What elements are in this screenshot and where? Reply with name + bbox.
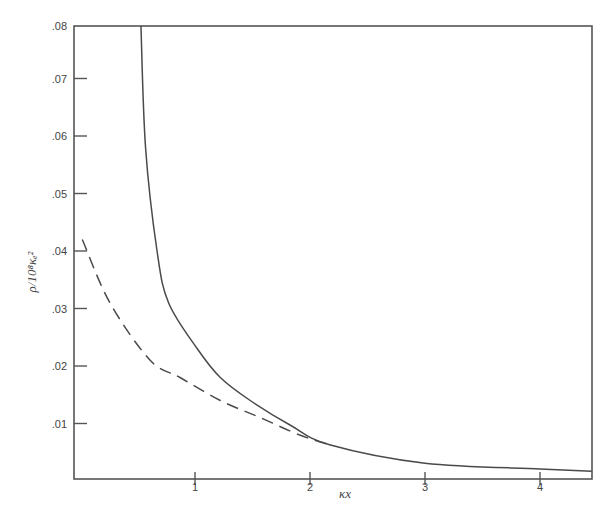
x-axis-ticks: 1234 — [192, 472, 543, 493]
y-tick-label: .04 — [52, 245, 67, 257]
x-tick-label: 4 — [537, 481, 543, 493]
x-tick-label: 1 — [192, 481, 198, 493]
y-tick-label: .08 — [52, 20, 67, 32]
y-tick-label: .07 — [52, 73, 67, 85]
x-tick-label: 2 — [307, 481, 313, 493]
x-axis-label: κx — [339, 486, 351, 501]
plot-frame — [74, 26, 592, 479]
dashed-curve — [82, 240, 329, 445]
y-tick-label: .05 — [52, 188, 67, 200]
y-tick-label: .03 — [52, 303, 67, 315]
x-tick-label: 3 — [422, 481, 428, 493]
solid-curve — [141, 26, 592, 471]
y-tick-label: .02 — [52, 360, 67, 372]
data-series — [82, 26, 591, 471]
chart: .01.02.03.04.05.06.07.08 1234 κx ρ/10⁸κₑ… — [0, 0, 614, 512]
y-tick-label: .01 — [52, 418, 67, 430]
y-axis-ticks: .01.02.03.04.05.06.07.08 — [52, 20, 87, 430]
y-axis-label: ρ/10⁸κₑ² — [24, 250, 39, 293]
y-tick-label: .06 — [52, 130, 67, 142]
